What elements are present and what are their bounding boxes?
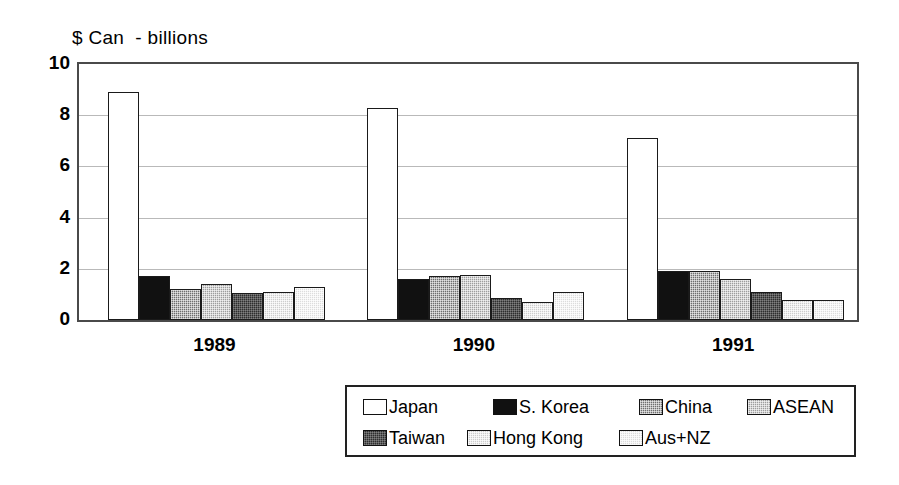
legend-row: JapanS. KoreaChinaASEAN (357, 392, 848, 422)
legend-label: Taiwan (389, 429, 445, 447)
bar-group (598, 64, 857, 320)
bar-s-korea-1990 (398, 279, 429, 320)
bar-aus-nz-1991 (813, 300, 844, 320)
legend-row: TaiwanHong KongAus+NZ (357, 423, 848, 453)
bar-china-1991 (689, 271, 720, 320)
bar-china-1990 (429, 276, 460, 320)
bar-taiwan-1989 (232, 293, 263, 320)
bar-taiwan-1990 (491, 298, 522, 320)
legend-item-hong-kong[interactable]: Hong Kong (467, 429, 583, 447)
legend-swatch-icon (363, 430, 387, 446)
legend-swatch-icon (639, 399, 663, 415)
y-axis: 1086420 (4, 62, 70, 322)
x-axis-tick-label: 1989 (155, 334, 275, 356)
bar-hong-kong-1990 (522, 302, 553, 320)
y-axis-tick-label: 10 (10, 53, 70, 72)
bar-japan-1989 (108, 92, 139, 320)
chart-legend: JapanS. KoreaChinaASEAN TaiwanHong KongA… (345, 385, 856, 457)
y-axis-tick-label: 0 (10, 309, 70, 328)
legend-swatch-icon (363, 399, 387, 415)
bar-aus-nz-1990 (553, 292, 584, 320)
bar-taiwan-1991 (751, 292, 782, 320)
legend-label: Japan (389, 398, 438, 416)
bar-japan-1991 (627, 138, 658, 320)
x-axis-tick-label: 1990 (414, 334, 534, 356)
legend-label: Hong Kong (493, 429, 583, 447)
chart-title: $ Can - billions (72, 27, 208, 49)
bar-group (338, 64, 597, 320)
bar-group (79, 64, 338, 320)
bar-s-korea-1989 (139, 276, 170, 320)
legend-item-china[interactable]: China (639, 398, 712, 416)
legend-item-taiwan[interactable]: Taiwan (363, 429, 445, 447)
legend-label: Aus+NZ (645, 429, 711, 447)
legend-swatch-icon (747, 399, 771, 415)
bar-s-korea-1991 (658, 271, 689, 320)
legend-label: ASEAN (773, 398, 834, 416)
legend-label: S. Korea (519, 398, 589, 416)
bar-asean-1989 (201, 284, 232, 320)
bar-chart: $ Can - billions 1086420 198919901991 Ja… (0, 0, 899, 485)
y-axis-tick-label: 6 (10, 155, 70, 174)
y-axis-tick-label: 4 (10, 206, 70, 225)
legend-label: China (665, 398, 712, 416)
legend-item-asean[interactable]: ASEAN (747, 398, 834, 416)
y-axis-tick-label: 8 (10, 104, 70, 123)
bar-asean-1991 (720, 279, 751, 320)
bar-hong-kong-1989 (263, 292, 294, 320)
legend-swatch-icon (493, 399, 517, 415)
legend-swatch-icon (619, 430, 643, 446)
legend-item-japan[interactable]: Japan (363, 398, 438, 416)
bar-hong-kong-1991 (782, 300, 813, 320)
bar-aus-nz-1989 (294, 287, 325, 320)
bar-japan-1990 (367, 108, 398, 320)
y-axis-tick-label: 2 (10, 257, 70, 276)
x-axis-tick-label: 1991 (673, 334, 793, 356)
legend-item-aus-nz[interactable]: Aus+NZ (619, 429, 711, 447)
legend-item-s-korea[interactable]: S. Korea (493, 398, 589, 416)
plot-area (77, 62, 859, 322)
bar-asean-1990 (460, 275, 491, 320)
legend-swatch-icon (467, 430, 491, 446)
bar-china-1989 (170, 289, 201, 320)
